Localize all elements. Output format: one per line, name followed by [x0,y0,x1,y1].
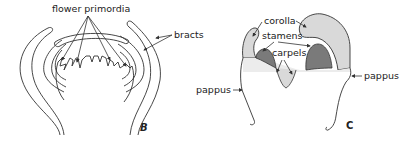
label-carpels: carpels [272,47,306,58]
label-pappus-right: pappus [364,70,399,81]
label-stamens: stamens [262,30,303,41]
panel-b-capitulum-drawing [20,21,160,135]
stamen-right [306,44,332,70]
floret-body-shading [243,58,350,72]
bracts-arrows [144,35,172,50]
panel-label-b: B [140,122,148,133]
label-corolla: corolla [264,15,296,26]
bract-outer-right [127,21,160,135]
panel-label-c: C [346,120,353,131]
carpels-shape [276,68,296,88]
bract-inner-right-1 [120,36,144,92]
corolla-left-lobe [243,28,259,58]
label-bracts: bracts [174,29,204,40]
label-pappus-left: pappus [196,84,231,95]
receptacle-with-primordia [58,56,132,70]
label-flower-primordia: flower primordia [52,3,130,14]
bract-inner-left-2 [52,44,66,87]
receptacle-stem-right [124,66,134,102]
diagram-canvas: flower primordia bracts B corolla stamen… [0,0,412,143]
bract-inner-right-3 [120,52,130,79]
